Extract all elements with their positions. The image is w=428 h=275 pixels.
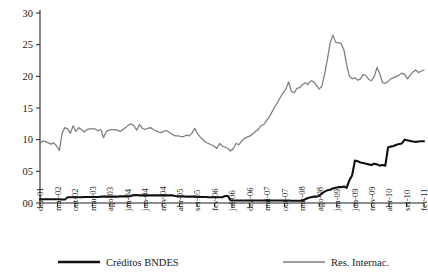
x-tick-label: out-07 [280,188,290,211]
y-tick-label: 00 [23,198,34,209]
x-tick-label: abr-05 [175,189,185,212]
x-tick-label: set-10 [402,189,412,211]
x-tick-label: nov-09 [367,186,377,211]
x-tick-label: jan-04 [123,188,133,212]
x-tick-label: abr-10 [384,188,394,211]
x-tick-label: mai-07 [262,186,272,211]
chart-container: 00051015202530 dez-01mai-02out-02mar-03a… [0,0,428,275]
x-tick-label: jun-04 [140,188,150,212]
x-tick-label: jun-09 [350,188,360,212]
y-tick-label: 20 [23,71,34,82]
x-tick-label: out-02 [70,188,80,211]
y-axis: 00051015202530 [23,8,41,209]
x-tick-label: dez-06 [245,187,255,211]
y-tick-label: 15 [23,103,34,114]
legend-label-creditos-bndes: Créditos BNDES [106,257,179,268]
series-lines [40,35,424,201]
x-tick-label: jan-09 [332,189,342,212]
legend-label-res-internac: Res. Internac. [331,257,389,268]
y-tick-label: 30 [23,8,34,19]
y-tick-label: 10 [23,134,34,145]
y-tick-label: 05 [23,166,34,177]
x-tick-label: fev-11 [419,189,428,211]
x-tick-label: ago-03 [105,187,115,211]
y-tick-label: 25 [23,39,34,50]
x-tick-label: set-05 [192,190,202,211]
x-tick-label: mar-03 [88,186,98,211]
x-tick-label: fev-06 [210,188,220,211]
x-tick-label: nov-04 [158,186,168,211]
x-tick-label: ago-08 [315,186,325,211]
x-axis: dez-01mai-02out-02mar-03ago-03jan-04jun-… [35,185,428,212]
line-chart: 00051015202530 dez-01mai-02out-02mar-03a… [0,0,428,275]
series-line-res-internac [40,35,424,151]
chart-legend: Créditos BNDESRes. Internac. [58,257,389,268]
